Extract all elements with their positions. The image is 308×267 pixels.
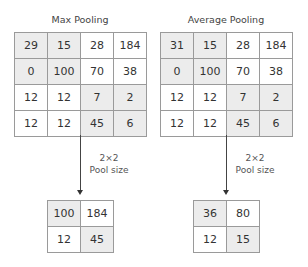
cell: 12 [161, 111, 194, 137]
cell: 2 [114, 85, 147, 111]
cell: 38 [114, 59, 147, 85]
cell: 12 [194, 227, 227, 253]
cell: 6 [114, 111, 147, 137]
cell: 184 [81, 201, 114, 227]
cell: 12 [194, 85, 227, 111]
max-pool-size-label: 2×2 Pool size [84, 152, 134, 176]
down-arrow-icon [77, 190, 83, 195]
average-pooling-arrow-line [226, 135, 227, 191]
cell: 45 [227, 111, 260, 137]
table-row: 12 12 45 6 [161, 111, 293, 137]
cell: 29 [15, 33, 48, 59]
table-row: 0 100 70 38 [161, 59, 293, 85]
table-row: 12 12 7 2 [15, 85, 147, 111]
cell: 184 [260, 33, 293, 59]
table-row: 100 184 [48, 201, 114, 227]
cell: 36 [194, 201, 227, 227]
cell: 184 [114, 33, 147, 59]
cell: 70 [81, 59, 114, 85]
cell: 6 [260, 111, 293, 137]
cell: 15 [227, 227, 260, 253]
table-row: 12 12 45 6 [15, 111, 147, 137]
table-row: 12 45 [48, 227, 114, 253]
cell: 15 [48, 33, 81, 59]
cell: 80 [227, 201, 260, 227]
cell: 100 [48, 59, 81, 85]
cell: 31 [161, 33, 194, 59]
cell: 0 [161, 59, 194, 85]
table-row: 36 80 [194, 201, 260, 227]
cell: 28 [227, 33, 260, 59]
average-pooling-output-grid: 36 80 12 15 [193, 200, 260, 253]
cell: 100 [48, 201, 81, 227]
cell: 12 [15, 85, 48, 111]
cell: 12 [15, 111, 48, 137]
average-pooling-title: Average Pooling [160, 14, 292, 25]
cell: 0 [15, 59, 48, 85]
max-pooling-input-grid: 29 15 28 184 0 100 70 38 12 12 7 2 12 12… [14, 32, 147, 137]
cell: 100 [194, 59, 227, 85]
pool-size-text: Pool size [230, 164, 280, 176]
cell: 2 [260, 85, 293, 111]
table-row: 29 15 28 184 [15, 33, 147, 59]
cell: 12 [161, 85, 194, 111]
pool-size-text: Pool size [84, 164, 134, 176]
max-pooling-title: Max Pooling [14, 14, 146, 25]
cell: 70 [227, 59, 260, 85]
max-pooling-arrow-line [80, 135, 81, 191]
down-arrow-icon [223, 190, 229, 195]
cell: 12 [48, 111, 81, 137]
pool-size-dims: 2×2 [230, 152, 280, 164]
pool-size-dims: 2×2 [84, 152, 134, 164]
table-row: 0 100 70 38 [15, 59, 147, 85]
cell: 7 [227, 85, 260, 111]
cell: 45 [81, 111, 114, 137]
max-pooling-output-grid: 100 184 12 45 [47, 200, 114, 253]
average-pool-size-label: 2×2 Pool size [230, 152, 280, 176]
cell: 12 [48, 85, 81, 111]
cell: 7 [81, 85, 114, 111]
table-row: 12 12 7 2 [161, 85, 293, 111]
table-row: 31 15 28 184 [161, 33, 293, 59]
cell: 15 [194, 33, 227, 59]
average-pooling-input-grid: 31 15 28 184 0 100 70 38 12 12 7 2 12 12… [160, 32, 293, 137]
cell: 12 [194, 111, 227, 137]
cell: 28 [81, 33, 114, 59]
cell: 12 [48, 227, 81, 253]
table-row: 12 15 [194, 227, 260, 253]
cell: 45 [81, 227, 114, 253]
cell: 38 [260, 59, 293, 85]
